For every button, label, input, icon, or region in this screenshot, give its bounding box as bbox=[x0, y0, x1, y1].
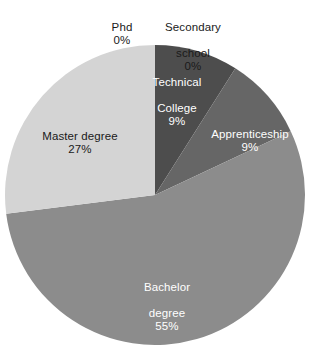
pie-label-master-degree-percent: 27% bbox=[22, 143, 138, 156]
pie-label-apprenticeship-percent: 9% bbox=[196, 141, 304, 154]
pie-label-technical-college-line1: Technical bbox=[153, 76, 202, 88]
pie-label-phd-text: Phd bbox=[112, 21, 133, 33]
pie-label-apprenticeship: Apprenticeship 9% bbox=[196, 115, 304, 167]
pie-label-bachelor-degree-line2: degree bbox=[149, 307, 185, 319]
pie-label-master-degree: Master degree 27% bbox=[22, 117, 138, 169]
pie-label-master-degree-text: Master degree bbox=[42, 130, 117, 142]
pie-label-phd-percent: 0% bbox=[92, 34, 152, 47]
pie-label-phd: Phd 0% bbox=[92, 8, 152, 60]
pie-label-bachelor-degree-percent: 55% bbox=[125, 320, 209, 333]
pie-label-secondary-school-line2: school bbox=[176, 47, 210, 59]
pie-chart: Phd 0% Secondary school 0% Technical Col… bbox=[0, 0, 309, 350]
pie-label-technical-college-line2: College bbox=[157, 102, 197, 114]
pie-label-bachelor-degree-line1: Bachelor bbox=[144, 281, 190, 293]
pie-label-secondary-school-line1: Secondary bbox=[165, 21, 221, 33]
pie-label-bachelor-degree: Bachelor degree 55% bbox=[125, 268, 209, 345]
pie-label-apprenticeship-text: Apprenticeship bbox=[211, 128, 288, 140]
